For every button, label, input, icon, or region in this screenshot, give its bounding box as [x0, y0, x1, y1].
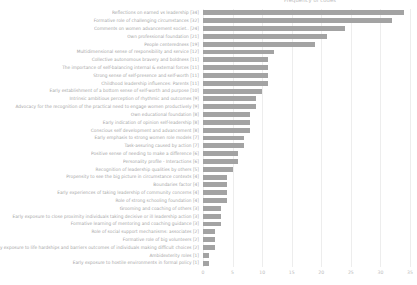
- bar-row: [203, 89, 410, 94]
- bar: [203, 18, 392, 23]
- bar-chart: Frequency of codes Reflections on earned…: [0, 0, 417, 285]
- bar-row: [203, 261, 410, 266]
- x-tick-label: 30: [377, 270, 383, 275]
- x-tick-label: 20: [318, 270, 324, 275]
- category-label: Task-assuring caused by action [7]: [125, 143, 199, 148]
- bar: [203, 50, 274, 55]
- bar: [203, 65, 268, 70]
- category-label: Intrinsic ambitious perception of rhythm…: [70, 96, 199, 101]
- category-label: Role of social support mechanisms: assoc…: [91, 229, 199, 234]
- category-label: Comments on women advancement societ.. […: [94, 26, 199, 31]
- bars-container: [203, 9, 410, 267]
- bar: [203, 26, 345, 31]
- bar-row: [203, 214, 410, 219]
- category-label: Early establishment of a bottom sense of…: [49, 88, 199, 93]
- bar-row: [203, 73, 410, 78]
- x-tick-label: 0: [202, 270, 205, 275]
- category-label: Formative role of challenging circumstan…: [94, 18, 199, 23]
- bar-row: [203, 151, 410, 156]
- bar: [203, 229, 215, 234]
- bar-row: [203, 182, 410, 187]
- bar-row: [203, 167, 410, 172]
- category-label: Advocacy for the recognition of the prac…: [15, 104, 199, 109]
- bar-row: [203, 175, 410, 180]
- category-label: Childhood leadership influences: Parents…: [101, 81, 199, 86]
- bar-row: [203, 104, 410, 109]
- bar-row: [203, 253, 410, 258]
- plot-area: [203, 9, 410, 267]
- bar-row: [203, 10, 410, 15]
- category-label: Collective autonomous bravery and boldne…: [92, 57, 199, 62]
- bar: [203, 214, 221, 219]
- bar: [203, 143, 244, 148]
- bar: [203, 245, 215, 250]
- category-label: Role of strong schooling foundation [4]: [115, 198, 199, 203]
- bar-row: [203, 26, 410, 31]
- bar: [203, 198, 227, 203]
- bar: [203, 89, 262, 94]
- category-label: Boundaries factor [4]: [153, 182, 199, 187]
- bar-row: [203, 18, 410, 23]
- category-label: Early exposure to close proximity indivi…: [13, 213, 199, 218]
- bar-row: [203, 206, 410, 211]
- x-tick-label: 25: [348, 270, 354, 275]
- bar-row: [203, 245, 410, 250]
- category-label: Early indication of opinion self-leaders…: [103, 120, 199, 125]
- bar-row: [203, 237, 410, 242]
- bar-row: [203, 42, 410, 47]
- bar-row: [203, 198, 410, 203]
- bar: [203, 73, 268, 78]
- bar: [203, 206, 221, 211]
- bar: [203, 57, 268, 62]
- bar-row: [203, 143, 410, 148]
- bar: [203, 42, 315, 47]
- bar: [203, 237, 215, 242]
- category-label: Early exposure to life hardships and bar…: [0, 245, 199, 250]
- category-label: Early exposure to hostile environments i…: [73, 260, 199, 265]
- category-label: Ambidexterity roles [1]: [149, 253, 199, 258]
- bar: [203, 222, 221, 227]
- bar-row: [203, 65, 410, 70]
- bar: [203, 190, 227, 195]
- bar: [203, 253, 209, 258]
- bar: [203, 167, 233, 172]
- category-label: Recognition of leadership qualities by o…: [96, 167, 199, 172]
- category-label: Personality profile - Interactions [6]: [123, 159, 199, 164]
- bar: [203, 10, 404, 15]
- category-label: Conscious self development and advanceme…: [91, 127, 199, 132]
- category-label: Early experiences of taking leadership o…: [57, 190, 199, 195]
- bar: [203, 128, 250, 133]
- gridline: [410, 9, 411, 267]
- bar-row: [203, 81, 410, 86]
- bar-row: [203, 229, 410, 234]
- bar: [203, 96, 256, 101]
- x-tick-label: 15: [289, 270, 295, 275]
- bar: [203, 159, 238, 164]
- category-label: Formative learning of mentoring and coac…: [71, 221, 199, 226]
- bar-row: [203, 222, 410, 227]
- bar-row: [203, 190, 410, 195]
- bar: [203, 81, 268, 86]
- category-label: Propensity to see the big picture in cir…: [66, 174, 199, 179]
- category-label: Own professional foundation [21]: [127, 34, 199, 39]
- category-label: Early emphasis to strong women role mode…: [94, 135, 199, 140]
- category-label: People centeredness [19]: [144, 41, 199, 46]
- category-label: Strong sense of self-presence and self-w…: [93, 73, 199, 78]
- category-label: The importance of self-balancing interna…: [62, 65, 199, 70]
- bar-row: [203, 159, 410, 164]
- bar-row: [203, 96, 410, 101]
- bar: [203, 182, 227, 187]
- bar-row: [203, 34, 410, 39]
- bar-row: [203, 57, 410, 62]
- bar: [203, 34, 327, 39]
- bar-row: [203, 120, 410, 125]
- category-label: Formative role of big volunteers [2]: [123, 237, 199, 242]
- category-label: Reflections on earned vs leadership [34]: [112, 10, 199, 15]
- category-label: Multidimensional sense of responsibility…: [77, 49, 199, 54]
- bar: [203, 112, 250, 117]
- bar: [203, 151, 238, 156]
- bar: [203, 104, 256, 109]
- category-axis-labels: Reflections on earned vs leadership [34]…: [0, 9, 201, 267]
- bar: [203, 175, 227, 180]
- bar-row: [203, 128, 410, 133]
